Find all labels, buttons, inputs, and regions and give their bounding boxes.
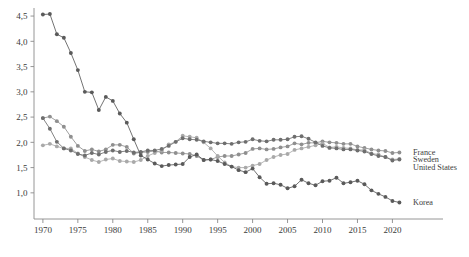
data-point bbox=[244, 166, 248, 170]
data-point bbox=[251, 147, 255, 151]
data-point bbox=[370, 188, 374, 192]
data-point bbox=[370, 147, 374, 151]
data-point bbox=[41, 13, 45, 17]
x-tick-label: 2010 bbox=[314, 225, 333, 235]
data-point bbox=[300, 146, 304, 150]
data-point bbox=[244, 151, 248, 155]
x-axis: 1970197519801985199019952000200520102015… bbox=[34, 219, 443, 235]
data-point bbox=[390, 199, 394, 203]
data-point bbox=[202, 139, 206, 143]
data-point bbox=[383, 149, 387, 153]
data-point bbox=[125, 121, 129, 125]
series-france bbox=[41, 115, 401, 162]
series-sweden bbox=[41, 134, 401, 170]
data-point bbox=[139, 158, 143, 162]
data-point bbox=[83, 90, 87, 94]
data-point bbox=[251, 137, 255, 141]
data-point bbox=[279, 183, 283, 187]
y-tick-label: 3,0 bbox=[16, 87, 28, 97]
x-tick-label: 1970 bbox=[34, 225, 53, 235]
y-tick-label: 4,0 bbox=[16, 37, 28, 47]
data-point bbox=[397, 201, 401, 205]
data-point bbox=[97, 153, 101, 157]
data-point bbox=[216, 154, 220, 158]
data-point bbox=[48, 115, 52, 119]
data-point bbox=[118, 159, 122, 163]
data-point bbox=[118, 112, 122, 116]
data-point bbox=[293, 135, 297, 139]
data-point bbox=[209, 146, 213, 150]
data-point bbox=[286, 152, 290, 156]
data-point bbox=[265, 139, 269, 143]
data-point bbox=[216, 159, 220, 163]
data-point bbox=[279, 153, 283, 157]
data-point bbox=[104, 150, 108, 154]
data-point bbox=[356, 148, 360, 152]
data-point bbox=[321, 179, 325, 183]
data-point bbox=[118, 143, 122, 147]
data-point bbox=[195, 138, 199, 142]
data-point bbox=[286, 137, 290, 141]
data-point bbox=[90, 151, 94, 155]
data-point bbox=[376, 192, 380, 196]
data-point bbox=[293, 141, 297, 145]
data-point bbox=[125, 160, 129, 164]
data-point bbox=[62, 36, 66, 40]
data-point bbox=[342, 181, 346, 185]
data-point bbox=[356, 179, 360, 183]
x-tick-label: 1980 bbox=[104, 225, 123, 235]
data-point bbox=[55, 32, 59, 36]
data-point bbox=[76, 152, 80, 156]
data-point bbox=[335, 176, 339, 180]
series-united-states bbox=[41, 116, 401, 162]
data-point bbox=[195, 153, 199, 157]
data-point bbox=[62, 125, 66, 129]
data-point bbox=[223, 154, 227, 158]
data-point bbox=[230, 154, 234, 158]
y-tick-label: 4,5 bbox=[16, 11, 28, 21]
data-point bbox=[383, 155, 387, 159]
data-point bbox=[397, 151, 401, 155]
data-point bbox=[83, 149, 87, 153]
x-tick-label: 2015 bbox=[348, 225, 367, 235]
data-point bbox=[279, 138, 283, 142]
data-point bbox=[390, 151, 394, 155]
data-point bbox=[230, 165, 234, 169]
data-point bbox=[293, 148, 297, 152]
data-point bbox=[181, 162, 185, 166]
data-point bbox=[209, 158, 213, 162]
data-point bbox=[328, 146, 332, 150]
data-point bbox=[146, 148, 150, 152]
data-point bbox=[118, 150, 122, 154]
y-tick-label: 3,5 bbox=[16, 62, 28, 72]
data-point bbox=[48, 127, 52, 131]
data-point bbox=[328, 140, 332, 144]
data-point bbox=[349, 147, 353, 151]
x-tick-label: 1990 bbox=[174, 225, 193, 235]
data-point bbox=[356, 144, 360, 148]
legend-label-korea: Korea bbox=[413, 198, 433, 207]
data-point bbox=[174, 140, 178, 144]
data-point bbox=[244, 170, 248, 174]
data-point bbox=[237, 168, 241, 172]
data-point bbox=[69, 148, 73, 152]
data-point bbox=[383, 195, 387, 199]
data-point bbox=[104, 158, 108, 162]
data-point bbox=[69, 135, 73, 139]
data-point bbox=[160, 164, 164, 168]
data-point bbox=[237, 140, 241, 144]
data-point bbox=[41, 116, 45, 120]
data-point bbox=[41, 143, 45, 147]
x-tick-label: 1995 bbox=[209, 225, 228, 235]
x-tick-label: 1975 bbox=[69, 225, 88, 235]
chart-canvas: 1,01,52,02,53,03,54,04,5 197019751980198… bbox=[0, 0, 469, 257]
data-point bbox=[335, 141, 339, 145]
data-point bbox=[223, 141, 227, 145]
data-point bbox=[174, 163, 178, 167]
data-point bbox=[230, 142, 234, 146]
data-point bbox=[272, 155, 276, 159]
data-point bbox=[153, 162, 157, 166]
data-point bbox=[153, 148, 157, 152]
data-point bbox=[286, 186, 290, 190]
data-point bbox=[167, 151, 171, 155]
